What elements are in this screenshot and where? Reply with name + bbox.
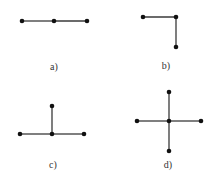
figure-d: [135, 90, 204, 154]
diagram-canvas: a) b) c) d): [0, 0, 219, 182]
graph-node: [52, 19, 57, 24]
graph-node: [174, 15, 179, 20]
figure-b-label: b): [162, 60, 170, 71]
graph-node: [82, 132, 87, 137]
figure-c: [18, 104, 87, 137]
graph-node: [50, 132, 55, 137]
figure-a-label: a): [50, 61, 58, 72]
figure-a: [20, 19, 90, 24]
graph-node: [135, 119, 140, 124]
graph-node: [85, 19, 90, 24]
graph-node: [50, 104, 55, 109]
graph-node: [141, 15, 146, 20]
graph-node: [174, 45, 179, 50]
graph-node: [167, 149, 172, 154]
graph-node: [20, 19, 25, 24]
figure-b: [141, 15, 179, 50]
graph-node: [199, 119, 204, 124]
graph-node: [167, 90, 172, 95]
figure-d-label: d): [164, 159, 172, 170]
graph-node: [18, 132, 23, 137]
graph-node: [167, 119, 172, 124]
figure-c-label: c): [49, 159, 57, 170]
graph-drawings: [0, 0, 219, 182]
